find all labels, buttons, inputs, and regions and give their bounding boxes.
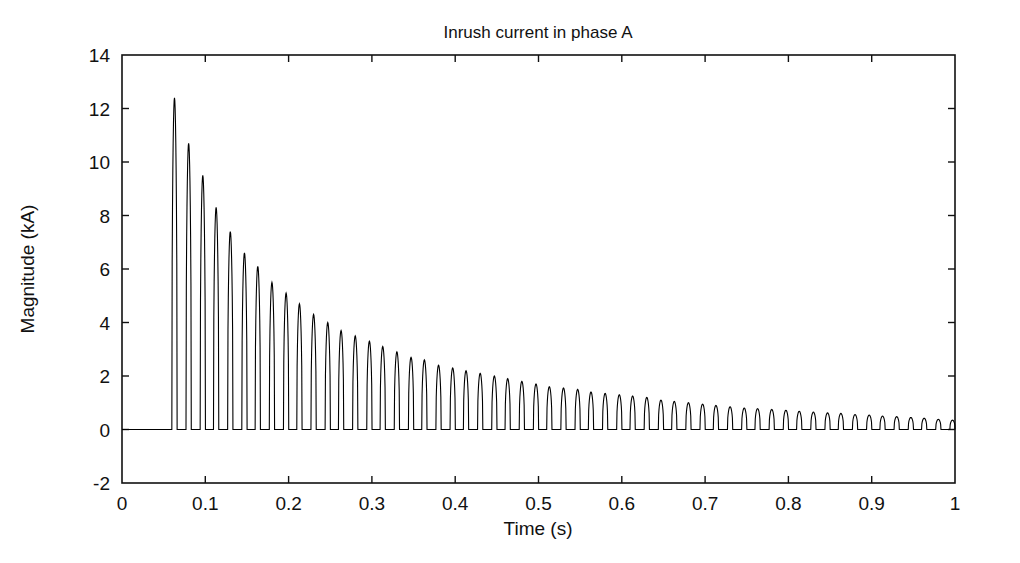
x-axis-label-group: Time (s) <box>504 518 573 539</box>
y-axis-tick-labels: -202468101214 <box>89 45 111 494</box>
y-tick-label: 14 <box>89 45 111 66</box>
y-tick-label: -2 <box>93 473 110 494</box>
y-tick-label: 2 <box>99 366 110 387</box>
x-tick-label: 1 <box>950 493 961 514</box>
x-tick-label: 0.5 <box>525 493 551 514</box>
x-tick-label: 0.3 <box>359 493 385 514</box>
y-tick-label: 8 <box>99 206 110 227</box>
chart-title: Inrush current in phase A <box>443 23 633 42</box>
y-tick-label: 0 <box>99 420 110 441</box>
x-tick-label: 0.4 <box>442 493 469 514</box>
y-axis-label: Magnitude (kA) <box>17 205 38 334</box>
y-tick-label: 4 <box>99 313 110 334</box>
plot-title-group: Inrush current in phase A <box>443 23 633 42</box>
x-axis-tick-labels: 00.10.20.30.40.50.60.70.80.91 <box>117 493 961 514</box>
x-tick-label: 0.6 <box>609 493 635 514</box>
y-axis-label-group: Magnitude (kA) <box>17 205 38 334</box>
x-tick-label: 0.2 <box>275 493 301 514</box>
chart-figure: Inrush current in phase A 00.10.20.30.40… <box>0 0 1020 563</box>
inrush-current-plot: Inrush current in phase A 00.10.20.30.40… <box>0 0 1020 563</box>
y-tick-label: 12 <box>89 99 110 120</box>
x-tick-label: 0.9 <box>858 493 884 514</box>
y-tick-label: 6 <box>99 259 110 280</box>
x-axis-label: Time (s) <box>504 518 573 539</box>
data-series-group <box>122 98 955 430</box>
x-tick-label: 0.7 <box>692 493 718 514</box>
x-tick-label: 0 <box>117 493 128 514</box>
inrush-current-waveform <box>122 98 955 430</box>
x-tick-label: 0.8 <box>775 493 801 514</box>
y-tick-label: 10 <box>89 152 110 173</box>
x-tick-label: 0.1 <box>192 493 218 514</box>
